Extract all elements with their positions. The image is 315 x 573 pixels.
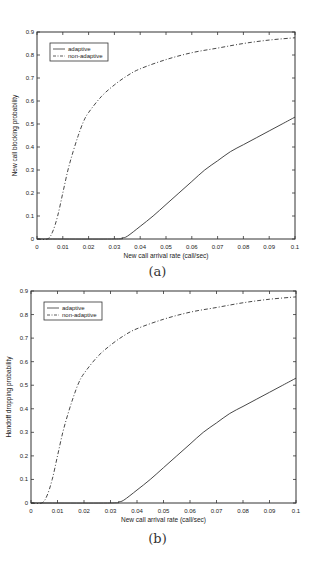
caption-b: (b) (0, 531, 315, 546)
legend-label: adaptive (62, 305, 85, 311)
x-tick-label: 0.06 (184, 508, 196, 514)
chart-b: 00.010.020.030.040.050.060.070.080.090.1… (0, 0, 315, 573)
x-tick-label: 0.04 (131, 508, 143, 514)
legend-label: non-adaptive (62, 312, 97, 318)
x-tick-label: 0.02 (78, 508, 90, 514)
plot-area (31, 291, 296, 503)
y-tick-label: 0.4 (20, 406, 29, 412)
y-tick-label: 0.7 (20, 335, 29, 341)
y-tick-label: 0.6 (20, 359, 29, 365)
x-tick-label: 0.07 (211, 508, 223, 514)
x-tick-label: 0.01 (52, 508, 64, 514)
legend: adaptivenon-adaptive (44, 302, 102, 320)
y-tick-label: 0.1 (20, 476, 29, 482)
x-axis-label: New call arrival rate (call/sec) (121, 516, 206, 524)
y-tick-label: 0.5 (20, 382, 29, 388)
x-tick-label: 0.03 (105, 508, 117, 514)
y-tick-label: 0 (25, 500, 29, 506)
y-tick-label: 0.3 (20, 429, 29, 435)
x-tick-label: 0.08 (237, 508, 249, 514)
y-tick-label: 0.9 (20, 288, 29, 294)
y-tick-label: 0.8 (20, 312, 29, 318)
x-tick-label: 0.1 (292, 508, 301, 514)
x-tick-label: 0 (29, 508, 33, 514)
y-axis-label: Handoff dropping probability (5, 356, 13, 438)
x-tick-label: 0.09 (264, 508, 276, 514)
x-tick-label: 0.05 (158, 508, 170, 514)
y-tick-label: 0.2 (20, 453, 29, 459)
